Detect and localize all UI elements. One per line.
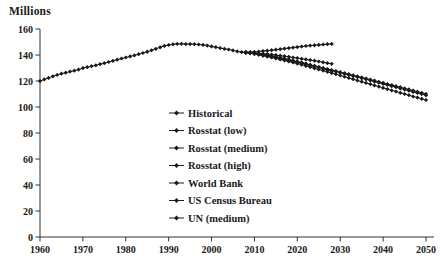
y-tick-label: 160	[18, 24, 33, 35]
legend-item-rosstat-high: Rosstat (high)	[169, 160, 251, 172]
x-tick-label: 1970	[73, 244, 93, 255]
y-tick-label: 60	[23, 154, 33, 165]
x-tick-label: 1960	[30, 244, 50, 255]
legend-item-label: Historical	[188, 108, 232, 119]
legend-item-label: Rosstat (high)	[188, 160, 251, 172]
population-projection-chart: Millions 0204060801001201401601960197019…	[0, 0, 444, 275]
y-tick-label: 20	[23, 206, 33, 217]
legend-item-label: World Bank	[188, 178, 243, 189]
legend-item-un-medium: UN (medium)	[169, 213, 250, 225]
series-rosstat-high	[244, 42, 334, 55]
y-tick-label: 40	[23, 180, 33, 191]
legend-item-us-census-bureau: US Census Bureau	[169, 195, 272, 206]
chart-canvas: 0204060801001201401601960197019801990200…	[0, 0, 444, 275]
legend: HistoricalRosstat (low)Rosstat (medium)R…	[169, 108, 272, 225]
y-tick-label: 80	[23, 128, 33, 139]
legend-key-marker-icon	[174, 181, 179, 186]
legend-item-label: Rosstat (low)	[188, 125, 247, 137]
series-markers	[38, 42, 248, 83]
series-un-medium	[244, 50, 428, 102]
y-tick-label: 120	[18, 76, 33, 87]
x-tick-label: 2040	[373, 244, 393, 255]
x-tick-label: 2000	[202, 244, 222, 255]
legend-item-rosstat-medium: Rosstat (medium)	[169, 143, 268, 155]
legend-key-marker-icon	[174, 163, 179, 168]
series-line	[40, 44, 246, 81]
legend-item-historical: Historical	[169, 108, 232, 119]
series-historical	[38, 42, 248, 83]
x-tick-label: 1990	[159, 244, 179, 255]
x-tick-label: 2020	[287, 244, 307, 255]
x-tick-label: 1980	[116, 244, 136, 255]
series-markers	[244, 42, 334, 55]
series-markers	[244, 50, 428, 102]
legend-item-rosstat-low: Rosstat (low)	[169, 125, 247, 137]
legend-key-marker-icon	[174, 111, 179, 116]
y-tick-label: 140	[18, 50, 33, 61]
x-tick-label: 2050	[416, 244, 436, 255]
y-tick-label: 100	[18, 102, 33, 113]
legend-key-marker-icon	[174, 216, 179, 221]
legend-key-marker-icon	[174, 128, 179, 133]
legend-key-marker-icon	[174, 198, 179, 203]
x-tick-label: 2030	[330, 244, 350, 255]
legend-item-label: US Census Bureau	[188, 195, 272, 206]
legend-key-marker-icon	[174, 146, 179, 151]
legend-item-label: UN (medium)	[188, 213, 250, 225]
y-tick-label: 0	[28, 232, 33, 243]
legend-item-label: Rosstat (medium)	[188, 143, 268, 155]
legend-item-world-bank: World Bank	[169, 178, 243, 189]
x-tick-label: 2010	[244, 244, 264, 255]
